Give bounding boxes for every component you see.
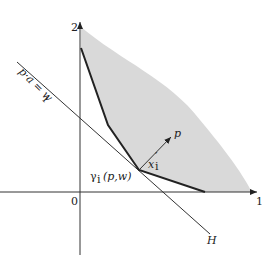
svg-text:γ: γ <box>90 170 97 183</box>
svg-text:(p,w): (p,w) <box>103 170 132 183</box>
demand-label: γ i (p,w) <box>90 170 132 186</box>
budget-line-label: p·a = w i <box>14 65 56 107</box>
svg-text:i: i <box>97 173 101 186</box>
x-tick-1: 1 <box>256 195 263 208</box>
y-tick-2: 2 <box>71 21 78 34</box>
svg-text:p·a = w: p·a = w <box>16 65 56 105</box>
shaded-region <box>81 27 252 192</box>
price-vector-label: p <box>174 127 181 140</box>
diagram-canvas: 2 1 0 H p x i ′ γ i (p,w) p·a = w i <box>0 0 280 278</box>
svg-text:x: x <box>148 158 155 171</box>
hyperplane-label: H <box>206 234 217 247</box>
origin-label: 0 <box>71 195 78 208</box>
